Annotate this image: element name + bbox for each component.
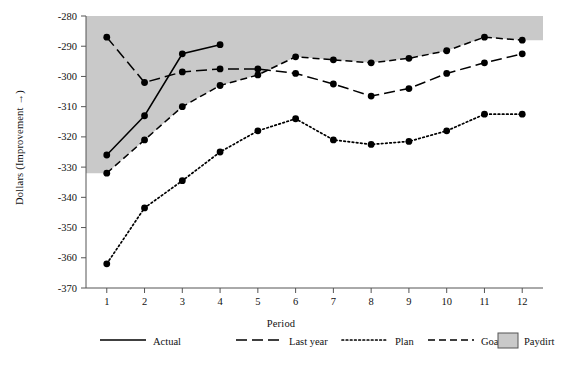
y-tick-label: -310 — [58, 101, 77, 112]
data-point — [254, 65, 261, 72]
data-point — [368, 93, 375, 100]
data-point — [217, 82, 224, 89]
x-tick-label: 2 — [142, 296, 147, 307]
data-point — [217, 65, 224, 72]
y-tick-label: -300 — [58, 71, 77, 82]
x-tick-label: 8 — [369, 296, 374, 307]
y-tick-label: -290 — [58, 41, 77, 52]
data-point — [443, 127, 450, 134]
legend-swatch — [498, 333, 518, 348]
data-point — [368, 59, 375, 66]
data-point — [368, 141, 375, 148]
data-point — [292, 70, 299, 77]
data-point — [519, 111, 526, 118]
y-axis-ticks: -280-290-300-310-320-330-340-350-360-370 — [58, 11, 86, 294]
legend-label: Last year — [289, 336, 328, 347]
data-point — [141, 112, 148, 119]
data-point — [141, 79, 148, 86]
x-tick-label: 10 — [441, 296, 452, 307]
legend-label: Actual — [153, 336, 181, 347]
data-point — [443, 70, 450, 77]
data-point — [330, 137, 337, 144]
x-tick-label: 12 — [517, 296, 528, 307]
x-tick-label: 4 — [217, 296, 223, 307]
data-point — [103, 152, 110, 159]
data-point — [519, 50, 526, 57]
legend-item-plan[interactable]: Plan — [342, 336, 414, 347]
legend-item-last-year[interactable]: Last year — [236, 336, 328, 347]
plot-area: -280-290-300-310-320-330-340-350-360-370… — [0, 0, 562, 369]
data-point — [217, 149, 224, 156]
data-point — [481, 34, 488, 41]
data-point — [519, 37, 526, 44]
data-point — [103, 170, 110, 177]
y-tick-label: -320 — [58, 131, 77, 142]
y-tick-label: -330 — [58, 162, 77, 173]
legend-item-paydirt[interactable]: Paydirt — [498, 333, 554, 348]
data-point — [443, 47, 450, 54]
data-point — [141, 137, 148, 144]
x-tick-label: 6 — [293, 296, 298, 307]
data-point — [254, 127, 261, 134]
x-tick-label: 5 — [255, 296, 260, 307]
data-point — [179, 50, 186, 57]
paydirt-shaded-region — [86, 16, 543, 173]
y-tick-label: -280 — [58, 11, 77, 22]
data-point — [481, 59, 488, 66]
legend-label: Plan — [395, 336, 414, 347]
series-plan — [103, 111, 525, 267]
y-tick-label: -340 — [58, 192, 77, 203]
data-point — [179, 103, 186, 110]
data-point — [217, 41, 224, 48]
x-tick-label: 1 — [104, 296, 109, 307]
data-point — [330, 56, 337, 63]
data-point — [406, 55, 413, 62]
data-point — [103, 34, 110, 41]
data-point — [179, 69, 186, 76]
data-point — [103, 260, 110, 267]
chart-legend: ActualLast yearPlanGoalPaydirt — [100, 333, 554, 348]
data-point — [292, 115, 299, 122]
data-point — [406, 138, 413, 145]
data-point — [141, 205, 148, 212]
y-tick-label: -350 — [58, 222, 77, 233]
y-tick-label: -370 — [58, 283, 77, 294]
x-tick-label: 7 — [331, 296, 336, 307]
data-point — [406, 85, 413, 92]
y-tick-label: -360 — [58, 252, 77, 263]
x-tick-label: 3 — [180, 296, 185, 307]
series-line — [107, 114, 522, 264]
legend-item-goal[interactable]: Goal — [428, 336, 501, 347]
data-point — [254, 72, 261, 79]
data-point — [292, 53, 299, 60]
data-point — [481, 111, 488, 118]
legend-item-actual[interactable]: Actual — [100, 336, 181, 347]
x-tick-label: 9 — [406, 296, 411, 307]
data-point — [330, 81, 337, 88]
legend-label: Paydirt — [524, 336, 554, 347]
data-point — [179, 177, 186, 184]
x-tick-label: 11 — [479, 296, 489, 307]
x-axis-ticks: 123456789101112 — [104, 288, 527, 307]
chart-container: Dollars (Improvement →) Period -280-290-… — [0, 0, 562, 369]
